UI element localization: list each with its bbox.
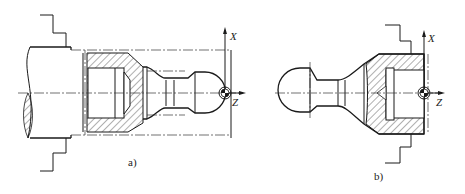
lathe-workpiece-drawing: X Z a) (0, 0, 465, 194)
chuck-jaw-bottom (40, 138, 66, 171)
bar-stock (24, 47, 72, 138)
chuck-jaw-top-b (385, 25, 411, 54)
axes-a: X Z (219, 27, 246, 108)
origin-symbol-b (418, 87, 430, 99)
panel-b: X Z b) (275, 25, 445, 183)
x-axis-label-b: X (427, 32, 436, 44)
chuck-jaw-bottom-b (385, 134, 411, 163)
z-axis-label-b: Z (436, 96, 443, 108)
origin-symbol-a (219, 87, 231, 99)
x-axis-label-a: X (229, 30, 238, 42)
caption-a: a) (128, 156, 137, 169)
chuck-jaw-top (40, 15, 66, 47)
caption-b: b) (374, 170, 384, 183)
z-axis-label-a: Z (232, 96, 239, 108)
panel-a: X Z a) (18, 15, 246, 171)
socket-body (83, 53, 143, 132)
socket-body-b (366, 54, 428, 134)
